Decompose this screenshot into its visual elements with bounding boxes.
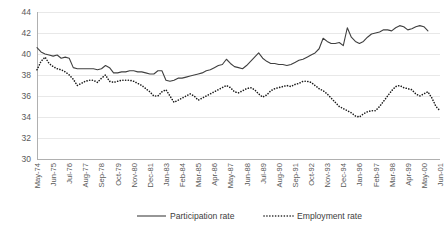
- y-tick-label: 32: [22, 133, 32, 143]
- series-line-participation-rate: [37, 26, 428, 82]
- x-tick-label: May-74: [33, 163, 42, 188]
- series-line-employment-rate: [37, 57, 440, 117]
- x-tick-label: Jun-75: [49, 163, 58, 186]
- y-tick-label: 34: [22, 112, 32, 122]
- x-tick-label: Nov-93: [323, 163, 332, 187]
- x-tick-label: Sep-91: [291, 163, 300, 188]
- y-axis-tick-labels: 3032343638404244: [22, 7, 32, 164]
- chart-container: 3032343638404244 May-74Jun-75Jul-76Aug-7…: [0, 0, 447, 233]
- gridlines: [37, 12, 440, 159]
- y-tick-label: 44: [22, 7, 32, 17]
- x-axis-tick-labels: May-74Jun-75Jul-76Aug-77Sep-78Oct-79Nov-…: [33, 163, 445, 188]
- chart-legend: Participation rate Employment rate: [137, 211, 362, 221]
- x-tick-label: May-87: [226, 163, 235, 188]
- x-tick-label: Jun-01: [436, 163, 445, 186]
- legend-label-employment-rate: Employment rate: [297, 211, 362, 221]
- x-tick-label: Sep-78: [97, 163, 106, 188]
- x-tick-label: Jul-89: [259, 163, 268, 184]
- x-tick-label: Feb-84: [178, 163, 187, 187]
- y-tick-label: 42: [22, 28, 32, 38]
- x-tick-label: Jun-88: [243, 163, 252, 186]
- x-tick-label: Jan-83: [162, 163, 171, 186]
- x-tick-label: Apr-86: [210, 163, 219, 186]
- x-tick-label: Jan-96: [355, 163, 364, 186]
- x-tick-label: Dec-94: [339, 163, 348, 187]
- x-tick-label: Mar-98: [388, 163, 397, 187]
- axis-lines: [37, 12, 440, 159]
- x-tick-label: Mar-85: [194, 163, 203, 187]
- x-tick-label: Feb-97: [372, 163, 381, 187]
- x-tick-label: May-00: [420, 163, 429, 188]
- x-tick-label: Apr-99: [404, 163, 413, 186]
- y-tick-label: 30: [22, 154, 32, 164]
- x-tick-label: Nov-80: [130, 163, 139, 187]
- x-tick-label: Dec-81: [146, 163, 155, 187]
- x-tick-label: Oct-79: [114, 163, 123, 186]
- x-tick-label: Aug-90: [275, 163, 284, 188]
- y-tick-label: 40: [22, 49, 32, 59]
- x-tick-label: Aug-77: [81, 163, 90, 188]
- y-tick-label: 36: [22, 91, 32, 101]
- line-chart: 3032343638404244 May-74Jun-75Jul-76Aug-7…: [0, 0, 447, 233]
- x-tick-label: Oct-92: [307, 163, 316, 186]
- y-tick-label: 38: [22, 70, 32, 80]
- x-tick-label: Jul-76: [65, 163, 74, 184]
- legend-label-participation-rate: Participation rate: [170, 211, 235, 221]
